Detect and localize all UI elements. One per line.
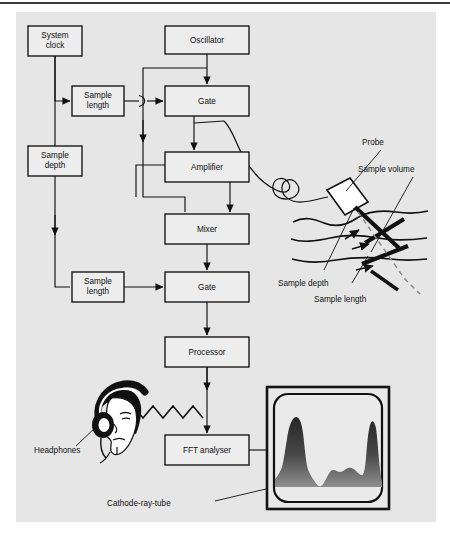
figure-root: System clock Sample length Sample depth …	[0, 0, 450, 543]
cathode-ray-tube-display[interactable]	[0, 0, 450, 543]
